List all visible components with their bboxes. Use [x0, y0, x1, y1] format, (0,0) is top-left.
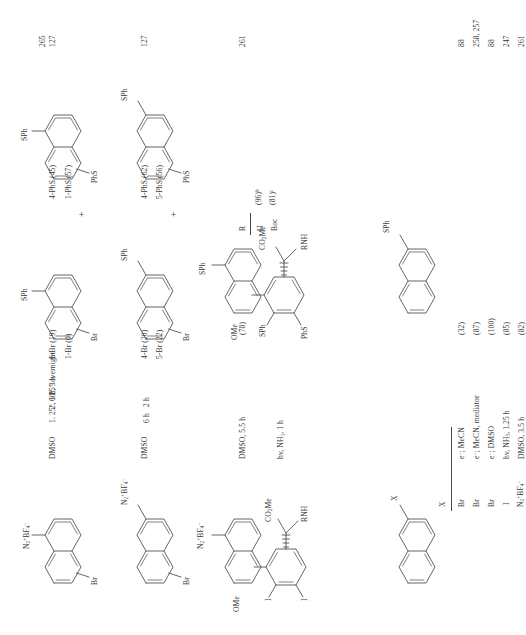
structure-2-phenylthio-naphthalene [218, 219, 290, 329]
ref-row-2-4: 261 [517, 35, 526, 47]
label-rnh-row1-product: RNH [300, 234, 309, 250]
yield-row4-productB-0: 4-PhS (62) [140, 165, 149, 199]
yield-row5-productA-0: 6-Br (19) [48, 330, 57, 359]
yield-row-2-1: (87) [472, 322, 481, 335]
label-br-row5-productA: Br [90, 333, 99, 341]
yield-row5-productA-1: 1-Br (0) [64, 334, 73, 359]
structure-4-bromonaphthalene-1-diazonium [128, 487, 204, 599]
conditions-row-4-line-2: 2 h [142, 397, 151, 407]
label-sph-row4-productB: SPh [120, 88, 129, 101]
ref-row-2-0: 88 [457, 39, 466, 47]
label-iodine-bottom-row1: I [300, 598, 309, 601]
label-x-row2: X [390, 495, 399, 501]
structure-1-phenylthio-naphthalene [392, 219, 464, 329]
conditions-row-2-line-0: e−; MeCN [457, 427, 466, 459]
yield-row-3-0: (78) [238, 322, 247, 335]
refs-row-5: 127 [48, 35, 57, 47]
yield-row4-productB-1: 5-PhS (56) [155, 165, 164, 199]
structure-naphthalene-2-diazonium [218, 489, 290, 599]
refs-row-4: 127 [140, 35, 149, 47]
refs-row-3: 261 [238, 35, 247, 47]
conditions-row-3: DMSO, 5.5 h [238, 417, 247, 459]
label-br-row4-productA: Br [182, 333, 191, 341]
yield-row5-productB-1: 1-PhS (57) [64, 165, 73, 199]
refs-row-1: 265 [38, 35, 47, 47]
label-phs-row4-productB: PhS [182, 170, 191, 183]
ref-row-2-3: 247 [502, 35, 511, 47]
x-table-value-1: Br [472, 499, 481, 507]
conditions-row-5-line-0: DMSO [48, 437, 57, 459]
yield-row5-productB-0: 4-PhS (45) [48, 165, 57, 199]
label-diazonium-row4: N2+BF4− [120, 479, 129, 506]
plus-operator-row4: + [168, 211, 179, 217]
label-sph-row5-productB: SPh [20, 128, 29, 141]
conditions-row-4-line-0: DMSO [140, 437, 149, 459]
conditions-row-2-line-2: e−; DMSO [487, 426, 496, 459]
structure-6-bromonaphthalene-2-diazonium [36, 487, 112, 599]
label-diazonium-row5: N2+BF4− [22, 523, 31, 550]
x-table-value-0: Br [457, 499, 466, 507]
conditions-row-1: hv, NH₃, 1 h [276, 420, 285, 459]
ref-row-2-2: 88 [487, 39, 496, 47]
label-phs-row5-productB: PhS [90, 170, 99, 183]
x-table-value-2: Br [487, 499, 496, 507]
yield-row-2-3: (85) [502, 322, 511, 335]
yield-row-2-4: (82) [517, 322, 526, 335]
r-table-row-1-yield: (81)c [268, 190, 277, 205]
yield-row-2-2: (100) [487, 318, 496, 335]
structure-1-x-naphthalene [392, 489, 464, 599]
conditions-row-2-line-4: DMSO, 3.5 h [517, 417, 526, 459]
x-table-rule [451, 427, 452, 511]
r-table-row-0-yield: (96)b [254, 189, 263, 205]
x-table-value-3: I [502, 502, 511, 505]
label-sph-row5-productA: SPh [20, 288, 29, 301]
label-sph-row4-productA: SPh [120, 248, 129, 261]
x-table-value-4: N2+BF4− [516, 481, 525, 508]
conditions-row-2-line-1: e−; MeCN, mediator [472, 395, 481, 459]
label-phs-row1-product: PhS [300, 326, 309, 339]
label-br-row5: Br [90, 577, 99, 585]
yield-row4-productA-0: 4-Br (20) [140, 330, 149, 359]
x-table-header: X [438, 501, 447, 507]
label-sph-row2-product: SPh [382, 220, 391, 233]
yield-row-2-0: (32) [457, 322, 466, 335]
conditions-row-2-line-3: hv, NH3, 1.25 h [502, 410, 511, 459]
label-rnh-row1: RNH [300, 506, 309, 522]
plus-operator-row5: + [76, 211, 87, 217]
conditions-row-4-line-1: 6 h [142, 413, 151, 423]
yield-row4-productA-1: 5-Br (22) [155, 330, 164, 359]
ref-row-2-1: 258, 257 [472, 20, 481, 47]
label-br-row4: Br [182, 577, 191, 585]
